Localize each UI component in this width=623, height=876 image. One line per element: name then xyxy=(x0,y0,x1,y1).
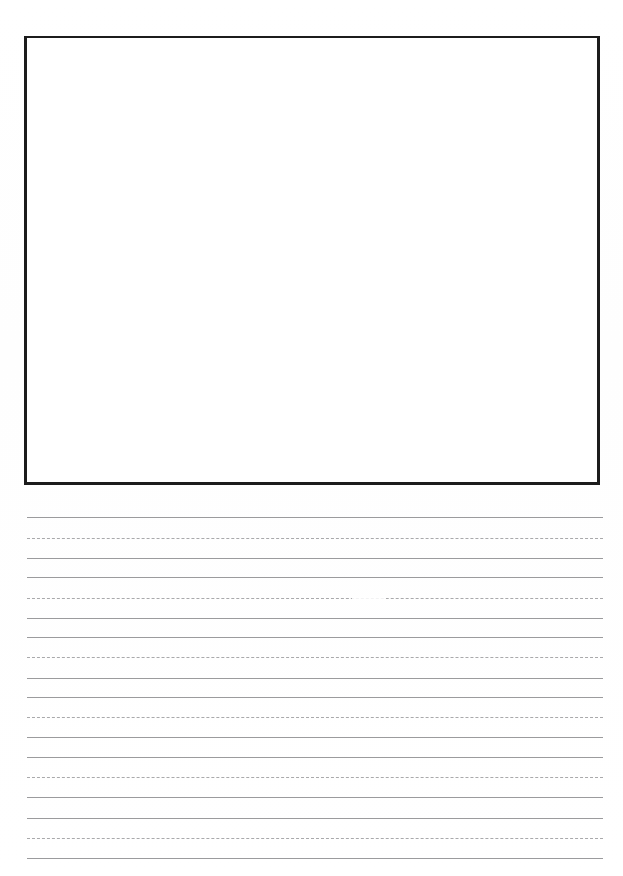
writing-baseline[interactable] xyxy=(27,517,603,518)
writing-midline[interactable] xyxy=(27,598,603,599)
writing-midline[interactable] xyxy=(27,777,603,778)
writing-baseline[interactable] xyxy=(27,558,603,559)
writing-baseline[interactable] xyxy=(27,577,603,578)
writing-baseline[interactable] xyxy=(27,818,603,819)
illustration-box[interactable] xyxy=(24,36,600,485)
writing-baseline[interactable] xyxy=(27,697,603,698)
writing-midline[interactable] xyxy=(27,838,603,839)
drawing-canvas[interactable] xyxy=(27,39,597,482)
illustration-box-top-border xyxy=(24,36,600,38)
writing-midline[interactable] xyxy=(27,657,603,658)
writing-midline[interactable] xyxy=(27,538,603,539)
writing-baseline[interactable] xyxy=(27,737,603,738)
illustration-box-right-border xyxy=(597,36,600,485)
writing-baseline[interactable] xyxy=(27,797,603,798)
writing-baseline[interactable] xyxy=(27,757,603,758)
writing-baseline[interactable] xyxy=(27,637,603,638)
writing-baseline[interactable] xyxy=(27,618,603,619)
scan-artifact-gap xyxy=(352,597,386,600)
writing-baseline[interactable] xyxy=(27,678,603,679)
writing-baseline[interactable] xyxy=(27,858,603,859)
illustration-box-bottom-border xyxy=(24,482,600,485)
worksheet-page xyxy=(0,0,623,876)
writing-midline[interactable] xyxy=(27,717,603,718)
